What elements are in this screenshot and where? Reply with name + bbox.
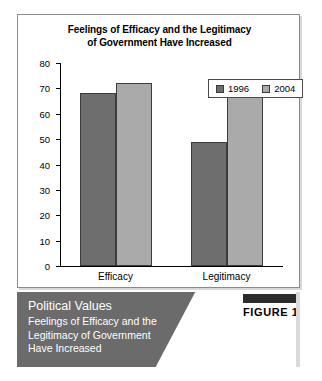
y-tick-label: 60: [39, 108, 50, 119]
y-tick-mark: [56, 266, 60, 267]
y-tick-label: 40: [39, 159, 50, 170]
bar-1996-legitimacy: [191, 142, 227, 266]
figure-badge-bar: [243, 294, 300, 303]
figure-container: Feelings of Efficacy and the Legitimacy …: [0, 0, 322, 381]
category-label-efficacy: Efficacy: [98, 271, 133, 282]
bar-1996-efficacy: [80, 93, 116, 266]
bar-2004-legitimacy: [227, 93, 263, 266]
y-tick-label: 50: [39, 134, 50, 145]
caption-banner: Political Values Feelings of Efficacy an…: [17, 292, 300, 367]
chart-legend: 1996 2004: [208, 79, 303, 98]
y-tick-label: 10: [39, 235, 50, 246]
chart-panel: Feelings of Efficacy and the Legitimacy …: [17, 14, 300, 288]
y-tick-label: 20: [39, 210, 50, 221]
y-tick-label: 30: [39, 184, 50, 195]
chart-title-line-1: Feelings of Efficacy and the Legitimacy: [26, 24, 293, 37]
bar-2004-efficacy: [116, 83, 152, 266]
y-tick-label: 80: [39, 58, 50, 69]
x-axis-line: [60, 266, 283, 267]
figure-number-label: FIGURE 17.8: [243, 306, 300, 318]
figure-number-badge: FIGURE 17.8: [243, 294, 300, 318]
caption-subtitle-line-2: Legitimacy of Government: [28, 329, 218, 343]
category-label-legitimacy: Legitimacy: [203, 271, 251, 282]
chart-title: Feelings of Efficacy and the Legitimacy …: [26, 24, 293, 49]
caption-text-block: Political Values Feelings of Efficacy an…: [28, 298, 218, 356]
legend-swatch-1996: [216, 85, 224, 93]
legend-item-2004: 2004: [262, 83, 295, 94]
legend-label-2004: 2004: [274, 83, 295, 94]
legend-swatch-2004: [262, 85, 270, 93]
caption-heading: Political Values: [28, 298, 218, 314]
y-tick-0: 0: [56, 266, 60, 267]
y-tick-label: 0: [45, 261, 50, 272]
caption-subtitle: Feelings of Efficacy and the Legitimacy …: [28, 315, 218, 356]
chart-title-line-2: of Government Have Increased: [26, 37, 293, 50]
y-tick-label: 70: [39, 83, 50, 94]
caption-subtitle-line-3: Have Increased: [28, 342, 218, 356]
legend-item-1996: 1996: [216, 83, 249, 94]
legend-label-1996: 1996: [228, 83, 249, 94]
banner-right-edge-shadow: [296, 292, 300, 367]
caption-subtitle-line-1: Feelings of Efficacy and the: [28, 315, 218, 329]
